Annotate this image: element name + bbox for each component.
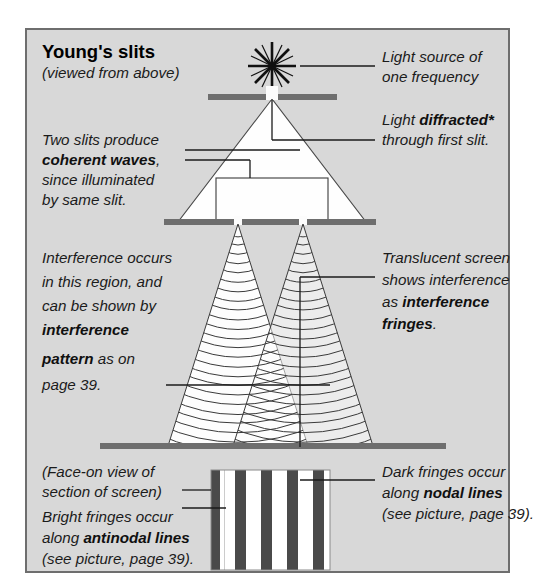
coherent-line1: Two slits produce <box>42 131 159 148</box>
bright-fringes-line1: Bright fringes occur <box>42 508 174 525</box>
interference-line2: in this region, and <box>42 273 162 290</box>
translucent-screen-bar <box>100 443 446 449</box>
page-title: Young's slits <box>42 41 155 62</box>
diffraction-line1-bold: diffracted* <box>419 111 495 128</box>
coherent-line3: since illuminated <box>42 171 155 188</box>
coherent-line2: coherent waves, <box>42 151 160 168</box>
translucent-line3-bold: interference <box>402 293 489 310</box>
face-on-line2: section of screen) <box>42 483 162 500</box>
light-source-line1: Light source of <box>382 48 483 65</box>
bright-fringes-line3: (see picture, page 39). <box>42 550 194 567</box>
interference-line5: pattern as on <box>41 350 135 367</box>
fringe-dark-band <box>261 470 272 570</box>
interference-line4: interference <box>42 321 129 338</box>
dark-fringes-line3: (see picture, page 39). <box>382 505 533 522</box>
translucent-line4-bold: fringes <box>382 315 433 332</box>
translucent-line1: Translucent screen <box>382 249 510 266</box>
interference-line6: page 39. <box>41 376 101 393</box>
fringe-dark-band <box>287 470 298 570</box>
interference-line1: Interference occurs <box>42 249 172 266</box>
diffraction-line2: through first slit. <box>382 131 489 148</box>
bright-fringes-line2: along antinodal lines <box>42 529 190 546</box>
youngs-slits-figure: Young's slits (viewed from above) Light … <box>0 0 533 581</box>
cone-inner-region <box>216 178 328 222</box>
dark-fringes-line2: along nodal lines <box>382 484 503 501</box>
translucent-line4: fringes. <box>382 315 437 332</box>
dark-fringes-line2-bold: nodal lines <box>423 484 502 501</box>
second-barrier <box>164 219 376 225</box>
translucent-line3-plain: as <box>382 293 402 310</box>
fringe-dark-band <box>235 470 246 570</box>
page-subtitle: (viewed from above) <box>42 64 180 81</box>
bright-fringes-line2-plain: along <box>42 529 83 546</box>
face-on-line1: (Face-on view of <box>42 463 156 480</box>
figure-canvas: Young's slits (viewed from above) Light … <box>0 0 533 581</box>
bright-fringes-label: Bright fringes occur along antinodal lin… <box>42 508 194 567</box>
translucent-line4-tail: . <box>433 315 437 332</box>
first-slit-gap <box>266 86 278 100</box>
bright-fringes-line2-bold: antinodal lines <box>83 529 189 546</box>
coherent-line2-bold: coherent waves <box>42 151 156 168</box>
interference-line5-bold: pattern <box>41 350 93 367</box>
diffraction-line1: Light diffracted* <box>382 111 495 128</box>
interference-line5-tail: as on <box>93 350 134 367</box>
fringe-pattern-panel <box>211 470 330 570</box>
coherent-line2-tail: , <box>156 151 160 168</box>
fringe-dark-band <box>313 470 324 570</box>
translucent-line3: as interference <box>382 293 490 310</box>
translucent-line2: shows interference <box>382 271 509 288</box>
fringe-dark-band <box>211 470 220 570</box>
interference-line3: can be shown by <box>42 297 157 314</box>
dark-fringes-line1: Dark fringes occur <box>382 463 506 480</box>
coherent-line4: by same slit. <box>42 191 126 208</box>
dark-fringes-line2-plain: along <box>382 484 423 501</box>
light-source-line2: one frequency <box>382 68 480 85</box>
diffraction-line1-plain: Light <box>382 111 419 128</box>
